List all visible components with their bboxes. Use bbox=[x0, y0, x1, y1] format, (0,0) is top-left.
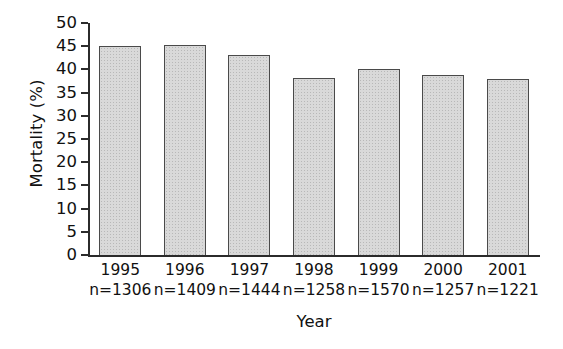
y-tick-0: 0 bbox=[81, 254, 88, 256]
x-tick-label-sample-size: n=1258 bbox=[282, 280, 347, 300]
x-tick-label-sample-size: n=1409 bbox=[153, 280, 218, 300]
x-tick-label-sample-size: n=1257 bbox=[411, 280, 476, 300]
x-tick-label-group: 1995n=1306 bbox=[88, 261, 153, 300]
bar-slot bbox=[282, 23, 347, 255]
y-tick-25: 25 bbox=[81, 138, 88, 140]
y-tick-label: 30 bbox=[56, 108, 77, 125]
y-tick-label: 25 bbox=[56, 131, 77, 148]
y-tick-label: 20 bbox=[56, 154, 77, 171]
x-tick-label-group: 1996n=1409 bbox=[153, 261, 218, 300]
x-tick-label-year: 2000 bbox=[411, 261, 476, 280]
x-axis-line bbox=[88, 255, 540, 257]
x-tick-label-year: 1998 bbox=[282, 261, 347, 280]
bar-series bbox=[88, 23, 540, 255]
bar-slot bbox=[217, 23, 282, 255]
bar-1998 bbox=[293, 78, 335, 255]
bar-slot bbox=[475, 23, 540, 255]
y-tick-20: 20 bbox=[81, 161, 88, 163]
bar-slot bbox=[411, 23, 476, 255]
bar-1995 bbox=[99, 46, 141, 255]
x-tick-label-sample-size: n=1570 bbox=[346, 280, 411, 300]
y-tick-40: 40 bbox=[81, 68, 88, 70]
y-tick-label: 10 bbox=[56, 200, 77, 217]
x-axis-title: Year bbox=[88, 312, 540, 331]
x-tick-label-sample-size: n=1444 bbox=[217, 280, 282, 300]
bar-1996 bbox=[164, 45, 206, 255]
y-tick-label: 40 bbox=[56, 61, 77, 78]
plot-area: 50454035302520151050 bbox=[88, 23, 540, 255]
x-tick-label-group: 1998n=1258 bbox=[282, 261, 347, 300]
y-tick-label: 15 bbox=[56, 177, 77, 194]
x-tick-label-group: 2000n=1257 bbox=[411, 261, 476, 300]
x-tick-label-year: 1996 bbox=[153, 261, 218, 280]
y-axis-title: Mortality (%) bbox=[27, 34, 46, 234]
x-tick-label-year: 1995 bbox=[88, 261, 153, 280]
bar-slot bbox=[153, 23, 218, 255]
y-tick-5: 5 bbox=[81, 231, 88, 233]
x-tick-label-year: 1999 bbox=[346, 261, 411, 280]
y-tick-35: 35 bbox=[81, 92, 88, 94]
y-tick-15: 15 bbox=[81, 184, 88, 186]
y-tick-label: 45 bbox=[56, 38, 77, 55]
x-tick-label-sample-size: n=1306 bbox=[88, 280, 153, 300]
x-tick-label-group: 2001n=1221 bbox=[475, 261, 540, 300]
y-tick-50: 50 bbox=[81, 22, 88, 24]
bar-slot bbox=[346, 23, 411, 255]
x-tick-label-group: 1999n=1570 bbox=[346, 261, 411, 300]
bar-2000 bbox=[422, 75, 464, 255]
y-tick-30: 30 bbox=[81, 115, 88, 117]
y-tick-label: 35 bbox=[56, 84, 77, 101]
bar-1999 bbox=[358, 69, 400, 255]
y-tick-label: 50 bbox=[56, 15, 77, 32]
x-tick-label-year: 2001 bbox=[475, 261, 540, 280]
bar-2001 bbox=[487, 79, 529, 255]
y-tick-label: 5 bbox=[67, 224, 78, 241]
y-tick-label: 0 bbox=[67, 247, 78, 264]
mortality-by-year-bar-chart: Mortality (%) 50454035302520151050 1995n… bbox=[0, 0, 563, 349]
bar-slot bbox=[88, 23, 153, 255]
x-axis-tick-labels: 1995n=13061996n=14091997n=14441998n=1258… bbox=[88, 261, 540, 311]
y-tick-45: 45 bbox=[81, 45, 88, 47]
y-tick-10: 10 bbox=[81, 208, 88, 210]
x-tick-label-group: 1997n=1444 bbox=[217, 261, 282, 300]
x-tick-label-sample-size: n=1221 bbox=[475, 280, 540, 300]
x-tick-label-year: 1997 bbox=[217, 261, 282, 280]
bar-1997 bbox=[228, 55, 270, 255]
